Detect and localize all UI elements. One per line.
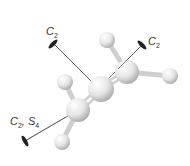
carbon-atom-left	[66, 98, 90, 122]
hydrogen-atom-left	[57, 74, 73, 90]
c2-right-label: C2	[148, 36, 160, 49]
carbon-atom-center	[88, 76, 114, 102]
carbon-atom-right	[115, 60, 139, 84]
c2-s4-axis-marker-icon	[20, 135, 29, 147]
c2-s4-label: C2, S4	[10, 116, 39, 129]
hydrogen-atom-bottom	[54, 134, 70, 150]
hydrogen-atom-top	[99, 32, 115, 48]
bonds	[62, 40, 170, 142]
c2-top-label: C2	[46, 26, 58, 39]
hydrogen-atom-right	[162, 68, 178, 84]
c2-top-axis-marker-icon	[47, 38, 58, 49]
allene-diagram	[0, 0, 190, 166]
symmetry-axes	[25, 43, 143, 141]
axis-markers	[20, 38, 147, 147]
